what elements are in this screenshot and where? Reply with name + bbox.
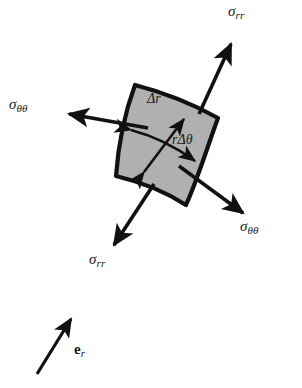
r-delta-theta-label: rΔθ <box>172 133 193 147</box>
sigma-subscript: rr <box>235 9 244 21</box>
sigma-subscript: θθ <box>16 102 27 114</box>
e-glyph: e <box>74 341 81 357</box>
e-r-basis-vector-arrow <box>37 319 71 374</box>
sigma-rr-arrow-bottom-left <box>114 184 154 245</box>
sigma-subscript: θθ <box>247 224 258 236</box>
stress-element-diagram <box>0 0 302 388</box>
e-subscript: r <box>81 347 85 359</box>
sigma-rr-label-top-right: σrr <box>228 4 244 21</box>
sigma-subscript: rr <box>96 257 105 269</box>
e-r-label: er <box>74 342 85 359</box>
sigma-thetatheta-label-left: σθθ <box>9 97 28 114</box>
delta-r-label: Δr <box>147 92 161 106</box>
sigma-rr-arrow-top-right <box>199 44 231 114</box>
sigma-thetatheta-label-bottom-right: σθθ <box>240 219 259 236</box>
sigma-rr-label-bottom-left: σrr <box>89 252 105 269</box>
